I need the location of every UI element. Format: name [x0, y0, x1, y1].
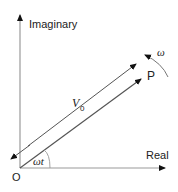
phasor-diagram: Imaginary Real O P ω ωt V 0: [0, 0, 178, 192]
angle-label: ωt: [33, 155, 45, 167]
angle-arc: [44, 150, 50, 168]
origin-label: O: [12, 171, 21, 183]
magnitude-label: V 0: [72, 96, 85, 113]
real-axis-label: Real: [146, 149, 169, 161]
svg-text:0: 0: [80, 104, 85, 113]
rotation-label: ω: [157, 46, 165, 58]
imaginary-axis-label: Imaginary: [29, 18, 78, 30]
phasor-tip-label: P: [147, 69, 155, 83]
